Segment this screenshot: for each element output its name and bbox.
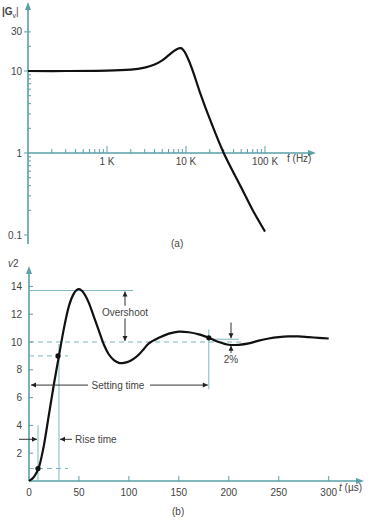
panel-b-step-response-plot: 2468101214 050100150200250300 v2 t (µs) … <box>8 258 364 517</box>
figure: 301010.1 1 K10 K100 K |Gv| f (Hz) (a) 24… <box>0 0 378 525</box>
panel-b-y-tick-label: 12 <box>11 309 23 320</box>
rise-time-label: Rise time <box>75 434 117 445</box>
overshoot-arrow-up-head-icon <box>123 292 128 297</box>
settling-time-arrow-left-head-icon <box>31 383 36 388</box>
settling-time-arrow-right-head-icon <box>203 383 208 388</box>
panel-b-y-tick-label: 6 <box>16 392 22 403</box>
panel-a-x-tick-label: 1 K <box>99 156 114 167</box>
panel-b-y-axis-arrow-icon <box>26 266 32 274</box>
panel-a-y-axis-arrow-icon <box>25 2 31 10</box>
panel-b-x-tick-label: 300 <box>320 487 337 498</box>
panel-b-y-tick-label: 2 <box>16 448 22 459</box>
panel-a-y-tick-label: 30 <box>11 26 23 37</box>
tolerance-arrow-down-head-icon <box>229 333 234 338</box>
settling-time-label: Setting time <box>92 380 145 391</box>
panel-b-y-tick-label: 14 <box>11 281 23 292</box>
panel-b-x-tick-label: 0 <box>26 487 32 498</box>
panel-b-x-tick-label: 250 <box>270 487 287 498</box>
panel-a-x-label: f (Hz) <box>287 153 311 164</box>
panel-b-y-tick-label: 8 <box>16 364 22 375</box>
panel-a-magnitude-plot: 301010.1 1 K10 K100 K |Gv| f (Hz) (a) <box>2 2 316 249</box>
panel-a-x-tick-label: 100 K <box>252 156 278 167</box>
panel-a-y-label: |Gv| <box>2 6 19 19</box>
panel-b-caption: (b) <box>172 506 184 517</box>
panel-b-x-tick-label: 50 <box>73 487 85 498</box>
panel-a-y-tick-label: 0.1 <box>8 230 22 241</box>
rise-time-arrow-right-head-icon <box>32 437 37 442</box>
panel-b-y-tick-label: 10 <box>11 337 23 348</box>
rise-time-arrow-left-head-icon <box>60 437 65 442</box>
90-percent-point-marker <box>55 353 60 358</box>
overshoot-label: Overshoot <box>102 307 148 318</box>
overshoot-arrow-down-head-icon <box>123 336 128 341</box>
panel-b-x-tick-label: 150 <box>171 487 188 498</box>
tolerance-arrow-up-head-icon <box>229 346 234 351</box>
panel-b-y-tick-label: 4 <box>16 420 22 431</box>
tolerance-band-label: 2% <box>224 354 239 365</box>
panel-a-y-tick-label: 1 <box>16 148 22 159</box>
panel-a-caption: (a) <box>171 238 183 249</box>
panel-b-x-tick-label: 100 <box>121 487 138 498</box>
panel-a-series-line <box>28 48 265 232</box>
panel-b-y-label: v2 <box>8 258 19 269</box>
panel-b-x-label: t (µs) <box>339 482 362 493</box>
settling-point-marker <box>206 335 211 340</box>
panel-a-y-tick-label: 10 <box>11 66 23 77</box>
10-percent-point-marker <box>35 466 40 471</box>
panel-b-x-tick-label: 200 <box>220 487 237 498</box>
panel-a-x-tick-label: 10 K <box>176 156 197 167</box>
